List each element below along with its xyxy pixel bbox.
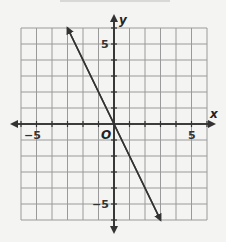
y-tick-label-neg5: −5 — [92, 198, 109, 211]
x-tick-label-pos5: 5 — [188, 129, 196, 142]
y-tick-label-pos5: 5 — [101, 38, 109, 51]
axes — [12, 16, 214, 232]
x-axis-label: x — [209, 107, 219, 121]
coordinate-plane: x y O −5 5 5 −5 — [0, 0, 226, 242]
y-axis-label: y — [119, 13, 128, 27]
x-tick-label-neg5: −5 — [24, 129, 41, 142]
origin-label: O — [101, 128, 111, 142]
axis-labels: x y O −5 5 5 −5 — [24, 13, 219, 211]
